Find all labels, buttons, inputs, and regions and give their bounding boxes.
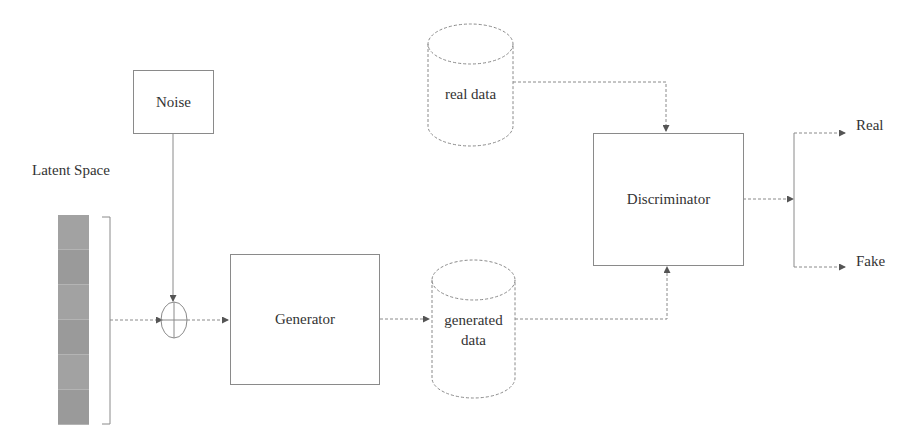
latent-cell: [58, 215, 89, 250]
output-real-label: Real: [856, 117, 884, 134]
latent-cell: [58, 390, 89, 425]
output-fake-label: Fake: [856, 253, 885, 270]
discriminator-box: Discriminator: [593, 133, 744, 266]
noise-box: Noise: [133, 70, 214, 134]
latent-bracket: [102, 217, 110, 424]
real-data-label: real data: [428, 84, 513, 104]
latent-space-label: Latent Space: [32, 162, 110, 179]
latent-space-vector: [58, 215, 89, 425]
edge-real-data-to-discriminator: [513, 82, 666, 131]
discriminator-label: Discriminator: [627, 191, 710, 208]
latent-cell: [58, 355, 89, 390]
generated-data-label-line2: data: [432, 330, 515, 350]
edge-generated-data-to-discriminator: [515, 267, 667, 319]
generator-label: Generator: [275, 311, 335, 328]
generator-box: Generator: [230, 254, 380, 385]
latent-cell: [58, 320, 89, 355]
latent-cell: [58, 285, 89, 320]
noise-label: Noise: [156, 94, 191, 111]
generated-data-label-line1: generated: [432, 310, 515, 330]
latent-cell: [58, 250, 89, 285]
connector-layer: [0, 0, 920, 442]
